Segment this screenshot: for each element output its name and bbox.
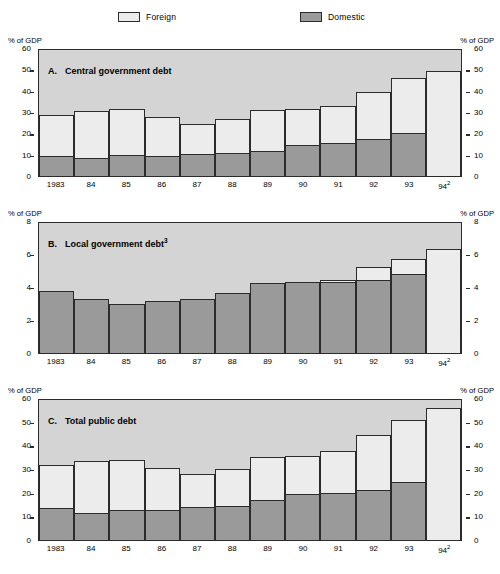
x-axis-label-93: 93 (391, 180, 426, 191)
y-tick-mark-right-30 (466, 470, 470, 471)
bar-segment-domestic (250, 500, 285, 540)
bar-segment-foreign (39, 465, 74, 509)
y-tick-label-right-6: 6 (474, 251, 478, 259)
x-axis-labels-a: 198384858687888990919293942 (38, 180, 462, 191)
bar-segment-foreign (180, 124, 215, 154)
panel-title-b: B.Local government debt3 (48, 237, 168, 249)
bar-90 (285, 400, 320, 540)
bar-segment-domestic (250, 283, 285, 353)
bar-segment-domestic (109, 304, 144, 353)
legend-item-foreign: Foreign (118, 12, 176, 22)
y-tick-label-right-0: 0 (474, 350, 478, 358)
bar-89 (250, 400, 285, 540)
y-tick-label-right-30: 30 (474, 109, 483, 117)
x-axis-label-92: 92 (356, 544, 391, 555)
y-tick-mark-right-20 (466, 134, 470, 135)
x-axis-label-89: 89 (250, 180, 285, 191)
bar-segment-domestic (145, 510, 180, 540)
bar-segment-domestic (215, 506, 250, 540)
panel-letter-a: A. (48, 66, 57, 76)
x-axis-label-1983: 1983 (38, 544, 73, 555)
bar-segment-domestic (109, 510, 144, 540)
bar-segment-foreign (391, 78, 426, 133)
bar-91 (320, 223, 355, 353)
chart-panel-local-government-debt: % of GDP % of GDP B.Local government deb… (0, 209, 500, 385)
bar-segment-domestic (180, 154, 215, 176)
chart-legend: Foreign Domestic (0, 12, 500, 28)
x-axis-label-89: 89 (250, 357, 285, 368)
y-tick-mark-right-20 (466, 494, 470, 495)
bar-segment-domestic (109, 155, 144, 176)
y-tick-label-left-0: 0 (27, 537, 31, 545)
x-axis-label-93: 93 (391, 544, 426, 555)
bar-segment-foreign (39, 115, 74, 156)
x-axis-labels-b: 198384858687888990919293942 (38, 357, 462, 368)
bar-segment-foreign (285, 109, 320, 145)
bar-93 (391, 400, 426, 540)
bar-88 (215, 223, 250, 353)
y-tick-mark-right-40 (466, 446, 470, 447)
y-tick-label-left-0: 0 (27, 350, 31, 358)
y-axis-right-b: 02468 (466, 209, 500, 385)
bar-segment-foreign (320, 106, 355, 144)
bar-segment-domestic (39, 156, 74, 176)
y-tick-label-right-50: 50 (474, 419, 483, 427)
y-tick-mark-left-2 (30, 321, 34, 322)
bar-88 (215, 50, 250, 176)
y-tick-mark-left-30 (30, 113, 34, 114)
y-tick-mark-right-30 (466, 113, 470, 114)
bar-90 (285, 223, 320, 353)
x-axis-label-93: 93 (391, 357, 426, 368)
y-tick-label-left-8: 8 (27, 218, 31, 226)
y-tick-label-left-60: 60 (22, 45, 31, 53)
y-tick-mark-right-50 (466, 423, 470, 424)
x-axis-label-86: 86 (144, 357, 179, 368)
x-axis-label-85: 85 (109, 544, 144, 555)
x-axis-label-90: 90 (285, 180, 320, 191)
x-axis-label-88: 88 (215, 544, 250, 555)
bar-segment-domestic (215, 153, 250, 176)
panel-title-superscript-b: 3 (164, 237, 168, 244)
y-tick-label-right-8: 8 (474, 218, 478, 226)
bar-93 (391, 50, 426, 176)
y-tick-label-right-20: 20 (474, 490, 483, 498)
panel-title-a: A.Central government debt (48, 64, 172, 76)
y-tick-mark-right-6 (466, 255, 470, 256)
x-axis-label-94: 942 (427, 544, 462, 555)
y-tick-mark-left-6 (30, 255, 34, 256)
bar-94 (426, 50, 461, 176)
bar-segment-foreign (109, 460, 144, 510)
y-tick-mark-right-10 (466, 156, 470, 157)
bar-segment-domestic (285, 145, 320, 177)
legend-label-foreign: Foreign (146, 12, 176, 22)
legend-item-domestic: Domestic (300, 12, 365, 22)
bar-91 (320, 50, 355, 176)
bar-segment-foreign (180, 474, 215, 507)
y-tick-label-right-0: 0 (474, 173, 478, 181)
x-axis-label-87: 87 (179, 180, 214, 191)
y-tick-label-left-0: 0 (27, 173, 31, 181)
y-tick-mark-left-40 (30, 92, 34, 93)
bar-93 (391, 223, 426, 353)
bar-segment-domestic (39, 508, 74, 540)
bar-segment-foreign (320, 451, 355, 493)
x-axis-label-90: 90 (285, 544, 320, 555)
x-axis-label-88: 88 (215, 180, 250, 191)
bar-segment-domestic (74, 158, 109, 176)
bar-segment-foreign (145, 468, 180, 510)
panel-title-c: C.Total public debt (48, 414, 136, 426)
bar-segment-foreign (74, 461, 109, 514)
panel-letter-c: C. (48, 416, 57, 426)
y-tick-label-right-40: 40 (474, 88, 483, 96)
bar-segment-domestic (391, 133, 426, 176)
y-tick-label-right-50: 50 (474, 66, 483, 74)
x-axis-label-85: 85 (109, 180, 144, 191)
bar-segment-domestic (250, 151, 285, 176)
x-axis-label-84: 84 (73, 180, 108, 191)
chart-panel-total-public-debt: % of GDP % of GDP C.Total public debt 01… (0, 386, 500, 574)
x-axis-label-92: 92 (356, 357, 391, 368)
y-tick-label-right-60: 60 (474, 395, 483, 403)
bar-segment-domestic (285, 282, 320, 354)
bar-segment-foreign (215, 119, 250, 153)
x-axis-label-85: 85 (109, 357, 144, 368)
